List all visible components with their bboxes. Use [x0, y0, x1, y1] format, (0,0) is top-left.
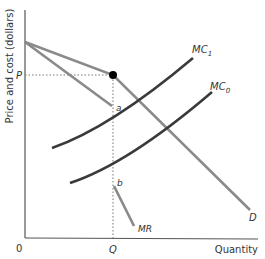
mc1-label-sub: 1: [208, 50, 212, 58]
mc0-label-main: MC: [210, 81, 226, 92]
mr-label: MR: [138, 224, 152, 234]
mc0-label: MC0: [210, 81, 231, 95]
mr-upper-segment: [25, 42, 112, 106]
mr-lower-segment: [114, 186, 134, 226]
y-axis-label: Price and cost (dollars): [4, 9, 15, 124]
kink-point: [109, 71, 117, 79]
point-b-label: b: [117, 178, 123, 188]
x-axis-label: Quantity: [215, 244, 258, 255]
kinked-demand-diagram: Price and cost (dollars) 0 Quantity P Q …: [0, 0, 265, 259]
mc1-label-main: MC: [192, 44, 208, 55]
quantity-label: Q: [109, 244, 117, 255]
demand-label: D: [249, 212, 257, 223]
mc0-label-sub: 0: [226, 87, 231, 95]
origin-label: 0: [16, 243, 22, 254]
mc0-curve: [70, 92, 212, 183]
x-axis: [25, 238, 258, 239]
mc1-label: MC1: [192, 44, 212, 58]
price-label: P: [16, 70, 23, 81]
